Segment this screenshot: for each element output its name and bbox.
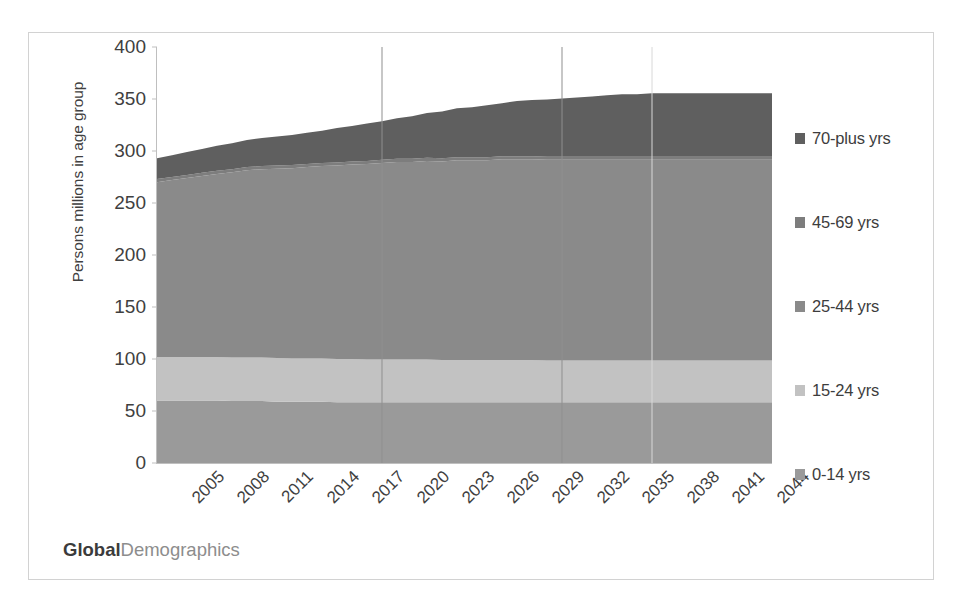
y-tick-mark-200 xyxy=(152,255,157,256)
y-tick-mark-0 xyxy=(152,463,157,464)
y-tick-label-50: 50 xyxy=(125,400,146,422)
x-tick-label-2014: 2014 xyxy=(323,467,364,508)
y-tick-mark-50 xyxy=(152,411,157,412)
legend-swatch-icon xyxy=(795,385,805,396)
area-series-0-14-yrs xyxy=(157,401,772,463)
y-tick-mark-250 xyxy=(152,203,157,204)
plot-area: 050100150200250300350400 xyxy=(157,47,772,463)
y-tick-label-100: 100 xyxy=(114,348,146,370)
watermark-light-text: Demographics xyxy=(121,539,240,560)
legend-item-70-plus-yrs[interactable]: 70-plus yrs xyxy=(795,129,891,148)
legend-item-25-44-yrs[interactable]: 25-44 yrs xyxy=(795,297,879,316)
y-tick-label-300: 300 xyxy=(114,140,146,162)
legend-item-label: 45-69 yrs xyxy=(812,213,879,232)
y-tick-label-150: 150 xyxy=(114,296,146,318)
x-tick-label-2029: 2029 xyxy=(548,467,589,508)
legend-swatch-icon xyxy=(795,217,805,228)
y-axis-title: Persons millions in age group xyxy=(69,37,87,327)
legend-item-0-14-yrs[interactable]: 0-14 yrs xyxy=(795,465,870,484)
y-tick-mark-400 xyxy=(152,47,157,48)
x-tick-label-2041: 2041 xyxy=(728,467,769,508)
legend-item-45-69-yrs[interactable]: 45-69 yrs xyxy=(795,213,879,232)
stacked-area-svg xyxy=(157,47,772,463)
legend-swatch-icon xyxy=(795,469,805,480)
legend-swatch-icon xyxy=(795,133,805,144)
y-tick-mark-150 xyxy=(152,307,157,308)
y-tick-label-400: 400 xyxy=(114,36,146,58)
y-tick-label-250: 250 xyxy=(114,192,146,214)
legend-item-label: 15-24 yrs xyxy=(812,381,879,400)
x-tick-label-2017: 2017 xyxy=(368,467,409,508)
legend-item-label: 70-plus yrs xyxy=(812,129,891,148)
x-axis-tick-labels: 2005200820112014201720202023202620292032… xyxy=(157,467,772,537)
x-tick-label-2035: 2035 xyxy=(638,467,679,508)
y-tick-label-350: 350 xyxy=(114,88,146,110)
y-tick-label-0: 0 xyxy=(135,452,146,474)
stacked-area-plot xyxy=(157,47,772,463)
x-tick-label-2023: 2023 xyxy=(458,467,499,508)
legend-swatch-icon xyxy=(795,301,805,312)
x-axis-line xyxy=(156,463,772,464)
x-tick-label-2008: 2008 xyxy=(233,467,274,508)
y-tick-mark-300 xyxy=(152,151,157,152)
legend-item-label: 25-44 yrs xyxy=(812,297,879,316)
x-tick-label-2005: 2005 xyxy=(188,467,229,508)
legend-item-label: 0-14 yrs xyxy=(812,465,870,484)
watermark-bold-text: Global xyxy=(63,539,121,560)
x-tick-label-2038: 2038 xyxy=(683,467,724,508)
watermark: GlobalDemographics xyxy=(63,539,240,561)
y-tick-mark-100 xyxy=(152,359,157,360)
x-tick-label-2011: 2011 xyxy=(278,467,318,507)
chart-frame: Persons millions in age group 0501001502… xyxy=(28,32,934,580)
x-tick-label-2020: 2020 xyxy=(413,467,454,508)
y-tick-mark-350 xyxy=(152,99,157,100)
x-tick-label-2032: 2032 xyxy=(593,467,634,508)
x-tick-label-2026: 2026 xyxy=(503,467,544,508)
area-series-15-24-yrs xyxy=(157,357,772,402)
area-series-25-44-yrs xyxy=(157,159,772,360)
legend-item-15-24-yrs[interactable]: 15-24 yrs xyxy=(795,381,879,400)
y-tick-label-200: 200 xyxy=(114,244,146,266)
